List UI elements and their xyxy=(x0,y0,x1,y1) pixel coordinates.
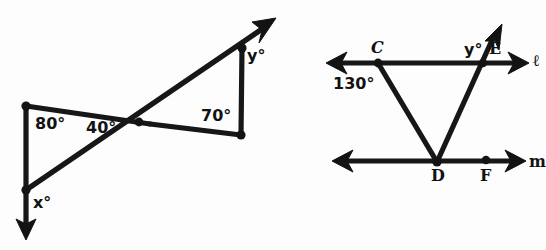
point-label-e: E xyxy=(489,41,501,57)
angle-label-80: 80° xyxy=(35,116,65,132)
angle-label-70: 70° xyxy=(201,108,231,124)
line-label-l: ℓ xyxy=(533,53,539,69)
right-vertical-segment xyxy=(241,48,242,135)
angle-label-y-right: y° xyxy=(464,42,482,58)
point-label-d: D xyxy=(431,168,445,184)
vertex-dot-e xyxy=(479,59,487,67)
angle-label-y-left: y° xyxy=(247,48,265,64)
segment-c-to-d xyxy=(378,63,437,162)
point-label-c: C xyxy=(371,40,384,56)
vertex-dot-f xyxy=(482,156,490,164)
center-to-bottom-right-segment xyxy=(150,124,241,135)
angle-label-x: x° xyxy=(33,195,51,211)
line-label-m: m xyxy=(529,154,546,170)
vertex-dot-bottom-left xyxy=(21,185,30,194)
vertex-dot-bottom-right xyxy=(236,130,245,139)
vertex-dot-top-left xyxy=(21,101,30,110)
angle-label-40: 40° xyxy=(86,120,116,136)
vertex-dot-top-right xyxy=(237,43,246,52)
vertex-dot-c xyxy=(374,59,383,68)
vertex-dot-center-crossing xyxy=(135,118,144,127)
point-label-f: F xyxy=(480,168,491,184)
angle-label-130: 130° xyxy=(333,76,374,92)
